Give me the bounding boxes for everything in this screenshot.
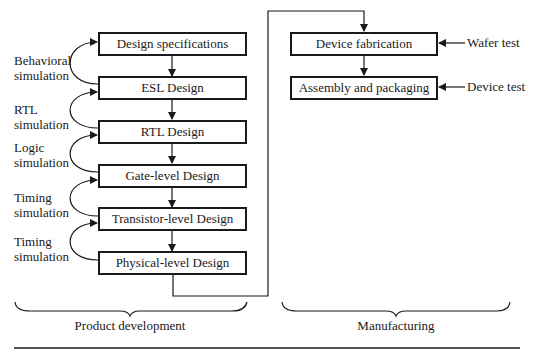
sim-label-rtl: RTLsimulation bbox=[14, 102, 69, 132]
step-label: Assembly and packaging bbox=[299, 80, 430, 96]
test-label-device: Device test bbox=[467, 79, 525, 94]
step-label: Transistor-level Design bbox=[112, 211, 234, 227]
step-gate-level-design: Gate-level Design bbox=[98, 164, 247, 188]
connector-wires bbox=[0, 0, 542, 357]
step-assembly-packaging: Assembly and packaging bbox=[290, 76, 438, 100]
step-design-specifications: Design specifications bbox=[98, 32, 247, 56]
step-label: Device fabrication bbox=[316, 36, 412, 52]
test-label-wafer: Wafer test bbox=[467, 35, 520, 50]
sim-label-timing-1: Timingsimulation bbox=[14, 190, 69, 220]
caption-product-development: Product development bbox=[60, 318, 200, 334]
step-label: Design specifications bbox=[117, 36, 229, 52]
sim-label-timing-2: Timingsimulation bbox=[14, 234, 69, 264]
sim-label-behavioral: Behavioralsimulation bbox=[14, 53, 71, 83]
step-rtl-design: RTL Design bbox=[98, 120, 247, 144]
step-label: Gate-level Design bbox=[125, 168, 219, 184]
step-label: RTL Design bbox=[141, 124, 204, 140]
caption-manufacturing: Manufacturing bbox=[340, 318, 452, 334]
step-transistor-level-design: Transistor-level Design bbox=[98, 207, 247, 231]
step-device-fabrication: Device fabrication bbox=[290, 32, 438, 56]
sim-label-logic: Logicsimulation bbox=[14, 140, 69, 170]
step-esl-design: ESL Design bbox=[98, 76, 247, 100]
step-label: Physical-level Design bbox=[116, 255, 230, 271]
step-label: ESL Design bbox=[141, 80, 204, 96]
step-physical-level-design: Physical-level Design bbox=[98, 251, 247, 275]
